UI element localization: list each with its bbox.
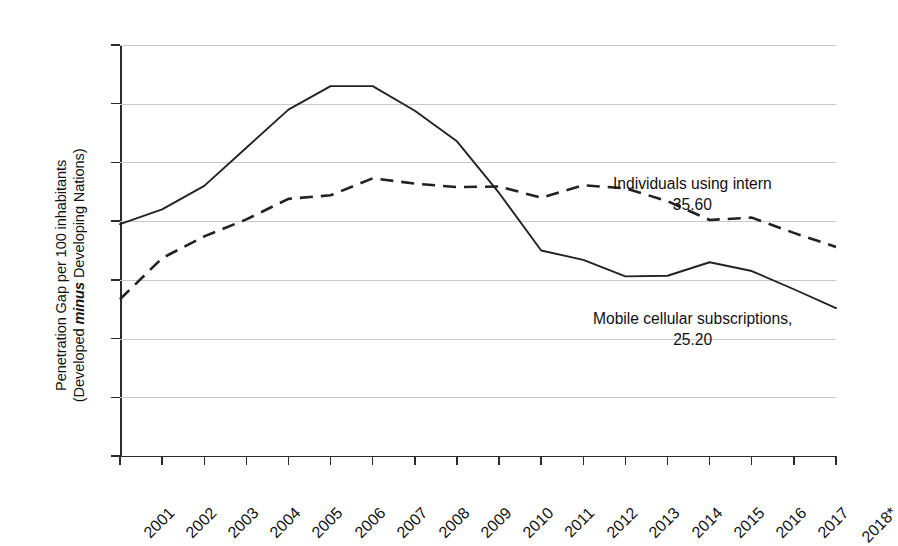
x-tick-label: 2018* [858, 504, 898, 546]
y-axis-title-line2-pre: (Developed [71, 325, 87, 403]
x-tick-mark [835, 456, 836, 465]
x-tick-label: 2017 [814, 504, 852, 542]
x-tick-mark [246, 456, 247, 465]
x-tick-label: 2006 [351, 504, 389, 542]
y-axis-title-line2-post: Developing Nations) [71, 149, 87, 282]
annotation-internet-value: 35.60 [613, 195, 772, 216]
x-tick-mark [625, 456, 626, 465]
x-tick-mark [330, 456, 331, 465]
series-layer [120, 45, 836, 456]
x-tick-label: 2007 [393, 504, 431, 542]
x-tick-label: 2016 [772, 504, 810, 542]
x-tick-label: 2003 [225, 504, 263, 542]
y-tick-mark [111, 397, 120, 398]
y-axis-title: Penetration Gap per 100 inhabitants (Dev… [52, 65, 89, 485]
annotation-mobile-value: 25.20 [593, 330, 792, 351]
x-tick-mark [583, 456, 584, 465]
y-axis-title-emphasis: minus [71, 282, 87, 324]
x-tick-label: 2011 [561, 504, 598, 541]
x-tick-mark [751, 456, 752, 465]
gridline [120, 456, 836, 457]
x-tick-mark [372, 456, 373, 465]
x-tick-label: 2013 [646, 504, 684, 542]
x-tick-label: 2005 [309, 504, 347, 542]
y-tick-mark [111, 162, 120, 163]
x-tick-mark [709, 456, 710, 465]
annotation-individuals-using-internet: Individuals using intern 35.60 [613, 174, 772, 215]
x-tick-mark [288, 456, 289, 465]
annotation-mobile-cellular-subscriptions: Mobile cellular subscriptions, 25.20 [593, 309, 792, 350]
x-tick-label: 2012 [604, 504, 642, 542]
x-tick-mark [456, 456, 457, 465]
x-tick-label: 2008 [435, 504, 473, 542]
x-tick-mark [119, 456, 120, 465]
y-tick-mark [111, 279, 120, 280]
x-tick-label: 2001 [140, 504, 178, 542]
x-tick-label: 2009 [477, 504, 515, 542]
y-tick-mark [111, 44, 120, 45]
annotation-internet-label: Individuals using intern [613, 175, 772, 192]
x-tick-mark [161, 456, 162, 465]
y-axis-title-line1: Penetration Gap per 100 inhabitants [53, 160, 69, 391]
x-tick-mark [204, 456, 205, 465]
y-axis-title-line2: (Developed minus Developing Nations) [70, 65, 88, 485]
x-tick-mark [793, 456, 794, 465]
y-tick-mark [111, 220, 120, 221]
x-tick-mark [498, 456, 499, 465]
plot-area: 010203040506070 200120022003200420052006… [120, 45, 836, 456]
x-tick-label: 2002 [183, 504, 221, 542]
y-tick-mark [111, 103, 120, 104]
y-tick-mark [111, 338, 120, 339]
annotation-mobile-label: Mobile cellular subscriptions, [593, 310, 792, 327]
x-tick-label: 2014 [688, 504, 726, 542]
x-tick-label: 2004 [267, 504, 305, 542]
x-tick-mark [540, 456, 541, 465]
x-tick-mark [414, 456, 415, 465]
x-tick-mark [667, 456, 668, 465]
x-tick-label: 2015 [730, 504, 768, 542]
x-tick-label: 2010 [519, 504, 557, 542]
